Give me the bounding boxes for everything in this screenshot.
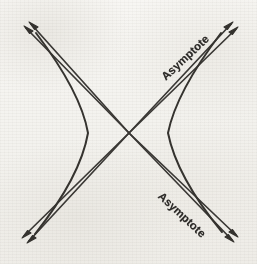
hyperbola-diagram-svg [0,0,257,264]
arrowhead-icon-upper-left-b [29,22,38,30]
arrowhead-icon-lower-left-a [22,231,31,239]
arrowhead-icon-upper-right-b [229,27,238,35]
arrowhead-icon-lower-left-b [27,236,36,244]
arrowhead-icon-upper-right-a [224,22,233,30]
hyperbola-figure: Asymptote Asymptote [0,0,257,264]
arrowhead-icon-upper-left-a [24,26,33,34]
arrowhead-icon-lower-right-b [229,230,238,238]
arrowhead-icon-lower-right-a [225,235,234,243]
